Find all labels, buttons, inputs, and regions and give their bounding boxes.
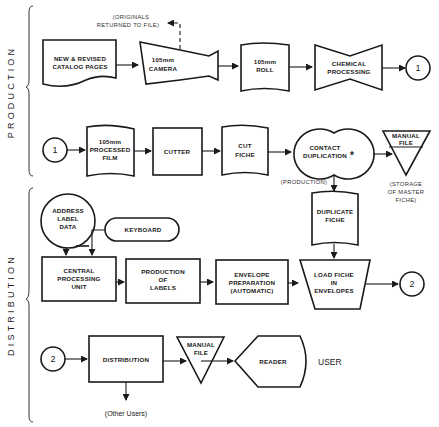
node-cpu: CENTRAL PROCESSING UNIT — [42, 257, 116, 301]
node-contact-duplication: CONTACT DUPLICATION * — [294, 129, 374, 179]
production-label: PRODUCTION — [6, 46, 16, 139]
node-camera: 105mm CAMERA — [140, 42, 218, 84]
manual-file-user-text-1: MANUAL — [187, 341, 215, 348]
connector-1-out: 1 — [406, 56, 430, 80]
node-processed-film: 105mm PROCESSED FILM — [87, 125, 134, 176]
node-manual-file-master: MANUAL FILE — [383, 131, 430, 175]
other-users-note: (Other Users) — [105, 410, 147, 418]
originals-note-2: RETURNED TO FILE) — [97, 22, 160, 28]
node-labels-text-3: LABELS — [150, 284, 176, 291]
manual-file-master-text-2: FILE — [399, 139, 413, 146]
connector-1-out-label: 1 — [415, 63, 420, 73]
node-distribution-text: DISTRIBUTION — [103, 356, 150, 363]
storage-note-2: OF MASTER — [388, 189, 425, 195]
node-reader-text: READER — [259, 358, 287, 365]
node-address-data: ADDRESS LABEL DATA — [41, 194, 95, 248]
node-cutfiche-text-1: CUT — [238, 142, 251, 149]
node-duplicate-fiche: DUPLICATE FICHE — [312, 191, 358, 245]
node-envelope-text-1: ENVELOPE — [234, 271, 269, 278]
contact-marker: * — [350, 150, 354, 161]
node-load-text-2: IN — [331, 279, 338, 286]
node-cutfiche-text-2: FICHE — [235, 151, 255, 158]
node-manual-file-user: MANUAL FILE — [177, 337, 224, 383]
node-cpu-text-2: PROCESSING — [57, 275, 100, 282]
node-cutter: CUTTER — [153, 128, 202, 175]
node-reader: READER — [235, 336, 306, 387]
node-envelope-text-3: (AUTOMATIC) — [231, 287, 274, 294]
node-roll-text-1: 105mm — [254, 58, 277, 65]
node-chemical: CHEMICAL PROCESSING — [315, 45, 382, 90]
node-catalog-pages-text-1: NEW & REVISED — [54, 55, 106, 62]
node-keyboard-text: KEYBOARD — [124, 226, 161, 233]
node-roll: 105mm ROLL — [241, 43, 289, 91]
node-distribution: DISTRIBUTION — [89, 336, 163, 382]
connector-2-in: 2 — [41, 347, 65, 371]
node-address-text-1: ADDRESS — [52, 207, 84, 214]
connector-2-in-label: 2 — [50, 354, 55, 364]
node-labels-text-1: PRODUCTION — [141, 268, 185, 275]
node-cpu-text-1: CENTRAL — [64, 267, 95, 274]
node-chemical-text-2: PROCESSING — [327, 68, 370, 75]
node-cutter-text: CUTTER — [164, 148, 191, 155]
node-address-text-3: DATA — [59, 223, 76, 230]
node-film-text-2: PROCESSED — [90, 146, 131, 153]
storage-note-3: FICHE) — [395, 197, 416, 203]
node-catalog-pages-text-2: CATALOG PAGES — [52, 63, 107, 70]
node-film-text-3: FILM — [102, 154, 117, 161]
node-contact-text-2: DUPLICATION — [303, 152, 347, 159]
node-film-text-1: 105mm — [99, 138, 122, 145]
distribution-label: DISTRIBUTION — [6, 254, 16, 356]
node-cpu-text-3: UNIT — [71, 283, 86, 290]
connector-1-in-label: 1 — [52, 145, 57, 155]
node-labels-text-2: OF — [159, 276, 168, 283]
storage-note-1: (STORAGE — [390, 181, 423, 187]
connector-1-in: 1 — [43, 138, 67, 162]
node-camera-text-2: CAMERA — [149, 65, 178, 72]
node-keyboard: KEYBOARD — [105, 218, 179, 241]
node-catalog-pages: NEW & REVISED CATALOG PAGES — [43, 40, 116, 86]
arrow-keyboard-to-cpu — [92, 230, 105, 255]
node-camera-text-1: 105mm — [152, 56, 175, 63]
node-load-text-3: ENVELOPES — [314, 287, 354, 294]
node-load-fiche: LOAD FICHE IN ENVELOPES — [300, 260, 370, 309]
manual-file-master-text-1: MANUAL — [392, 132, 420, 139]
node-load-text-1: LOAD FICHE — [314, 271, 354, 278]
user-label: USER — [318, 357, 342, 367]
manual-file-user-text-2: FILE — [194, 349, 208, 356]
production-note: (PRODUCTION) — [281, 179, 327, 185]
production-brace — [26, 6, 33, 176]
connector-2-out-label: 2 — [409, 279, 414, 289]
node-duplicate-text-1: DUPLICATE — [317, 208, 354, 215]
node-envelope-text-2: PREPARATION — [229, 279, 276, 286]
node-labels: PRODUCTION OF LABELS — [126, 259, 200, 303]
arrow-originals-return — [168, 23, 180, 49]
node-address-text-2: LABEL — [57, 215, 79, 222]
originals-note-1: (ORIGINALS — [113, 14, 150, 20]
flowchart: PRODUCTION DISTRIBUTION NEW & REVISED CA… — [0, 0, 439, 427]
connector-2-out: 2 — [400, 272, 424, 296]
node-roll-text-2: ROLL — [256, 66, 274, 73]
distribution-brace — [26, 188, 33, 422]
node-cut-fiche: CUT FICHE — [222, 125, 268, 175]
node-envelope-prep: ENVELOPE PREPARATION (AUTOMATIC) — [216, 260, 288, 304]
node-duplicate-text-2: FICHE — [325, 216, 345, 223]
node-chemical-text-1: CHEMICAL — [332, 60, 366, 67]
node-contact-text-1: CONTACT — [309, 144, 340, 151]
